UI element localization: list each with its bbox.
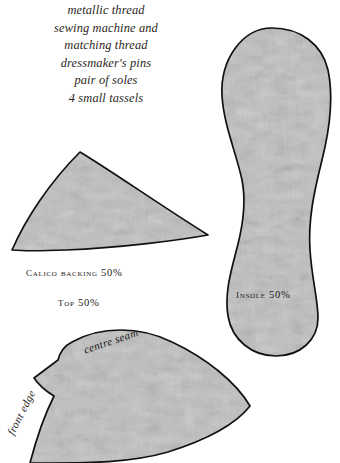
label-calico-backing: Calico Backing 50% (26, 265, 123, 280)
pattern-piece-insole (222, 28, 331, 356)
label-insole: Insole 50% (236, 287, 291, 302)
pattern-piece-upper (30, 330, 250, 463)
pattern-shapes (0, 0, 340, 463)
pattern-piece-top-wedge (12, 152, 208, 251)
label-top: Top 50% (58, 295, 99, 310)
pattern-sheet: metallic thread sewing machine and match… (0, 0, 340, 463)
